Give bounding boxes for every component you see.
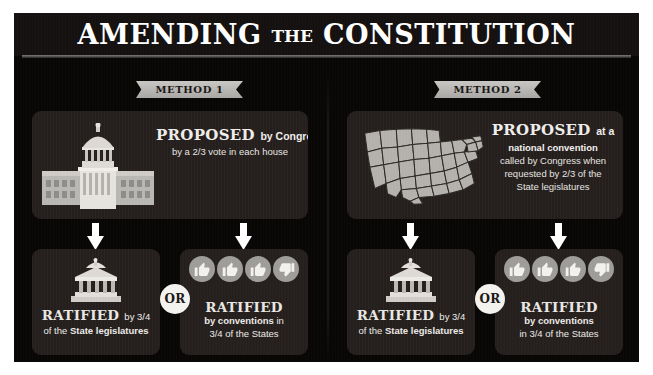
capitol-building-icon	[42, 123, 154, 209]
method-1-or-badge: OR	[160, 284, 190, 314]
method-1-label: METHOD 1	[155, 84, 223, 95]
m2-ratified-by34-left: by 3/4	[439, 311, 465, 322]
united-states-map-icon	[361, 121, 487, 207]
column-divider	[327, 73, 329, 362]
thumbs-up-icon	[189, 256, 215, 282]
method-2-national-convention: national convention	[487, 141, 619, 154]
method-2-arrow-left	[402, 223, 419, 250]
method-1-arrow-right	[235, 223, 252, 250]
m1-or-label: OR	[164, 292, 185, 306]
m1-thumbs-group	[189, 256, 299, 282]
thumbs-up-icon	[560, 256, 586, 282]
thumbs-up-icon	[217, 256, 243, 282]
method-2-arrow-right	[550, 223, 567, 250]
method-1-ratify-legislatures-text: RATIFIED by 3/4 of the State legislature…	[32, 307, 160, 338]
m2-conventions-line2: in 3/4 of the States	[495, 328, 623, 341]
m2-ratify-sub-prefix: of the	[358, 325, 384, 336]
method-1-proposed-bold: PROPOSED	[156, 126, 255, 144]
m1-conventions-suffix: in	[274, 315, 284, 326]
method-1-arrow-left	[87, 223, 104, 250]
method-1-proposed-regular: by Congress	[260, 130, 308, 142]
method-2-proposal-panel: PROPOSED at a national convention called…	[347, 111, 623, 219]
method-1-ratify-legislatures-panel: RATIFIED by 3/4 of the State legislature…	[32, 249, 160, 355]
method-2-detail-line-3: State legislatures	[487, 180, 619, 193]
m1-ratify-sub-prefix: of the	[43, 325, 69, 336]
title-word-the: THE	[271, 26, 313, 46]
method-2-ratify-conventions-panel: RATIFIED by conventions in 3/4 of the St…	[495, 249, 623, 355]
method-1-ratify-conventions-text: RATIFIED by conventions in 3/4 of the St…	[180, 299, 308, 340]
m1-conventions-bold: by conventions	[204, 315, 274, 326]
method-1-column: PROPOSED by Congress by a 2/3 vote in ea…	[24, 111, 314, 359]
m2-or-label: OR	[479, 292, 500, 306]
m2-conventions-bold: by conventions	[524, 315, 594, 326]
method-2-label: METHOD 2	[453, 84, 521, 95]
title-divider	[22, 55, 631, 58]
m2-ratified-bold-right: RATIFIED	[495, 299, 623, 315]
thumbs-up-icon	[245, 256, 271, 282]
method-2-column: PROPOSED at a national convention called…	[339, 111, 629, 359]
method-1-proposal-panel: PROPOSED by Congress by a 2/3 vote in ea…	[32, 111, 308, 219]
method-1-proposal-text: PROPOSED by Congress by a 2/3 vote in ea…	[156, 127, 304, 158]
m2-thumbs-group	[504, 256, 614, 282]
method-2-ribbon: METHOD 2	[434, 81, 541, 98]
m2-ratified-bold-left: RATIFIED	[357, 307, 435, 323]
m1-ratify-sub-bold: State legislatures	[70, 325, 149, 336]
method-2-proposed-bold: PROPOSED	[492, 121, 591, 139]
m1-conventions-line2: 3/4 of the States	[180, 328, 308, 341]
method-2-or-badge: OR	[475, 284, 505, 314]
method-1-ratify-conventions-panel: RATIFIED by conventions in 3/4 of the St…	[180, 249, 308, 355]
page-title: AMENDING THE CONSTITUTION	[14, 18, 639, 55]
method-2-ratify-conventions-text: RATIFIED by conventions in 3/4 of the St…	[495, 299, 623, 340]
thumbs-up-icon	[532, 256, 558, 282]
m1-ratified-bold-left: RATIFIED	[42, 307, 120, 323]
method-2-ratify-legislatures-panel: RATIFIED by 3/4 of the State legislature…	[347, 249, 475, 355]
method-2-detail-line-2: requested by 2/3 of the	[487, 167, 619, 180]
method-2-detail-line-1: called by Congress when	[487, 154, 619, 167]
thumbs-up-icon	[504, 256, 530, 282]
method-2-ratify-legislatures-text: RATIFIED by 3/4 of the State legislature…	[347, 307, 475, 338]
thumbs-down-icon	[273, 256, 299, 282]
m1-ratified-bold-right: RATIFIED	[180, 299, 308, 315]
method-2-proposed-regular: at a	[596, 125, 614, 137]
statehouse-icon	[384, 258, 438, 304]
statehouse-icon	[69, 258, 123, 304]
m1-ratified-by34-left: by 3/4	[124, 311, 150, 322]
infographic-poster: AMENDING THE CONSTITUTION METHOD 1 METHO…	[14, 13, 639, 362]
method-2-proposal-text: PROPOSED at a national convention called…	[487, 122, 619, 193]
method-1-ribbon: METHOD 1	[136, 81, 243, 98]
method-1-proposal-detail: by a 2/3 vote in each house	[156, 145, 304, 158]
m2-ratify-sub-bold: State legislatures	[385, 325, 464, 336]
title-word-constitution: CONSTITUTION	[323, 19, 575, 50]
title-word-amending: AMENDING	[78, 19, 262, 50]
thumbs-down-icon	[588, 256, 614, 282]
